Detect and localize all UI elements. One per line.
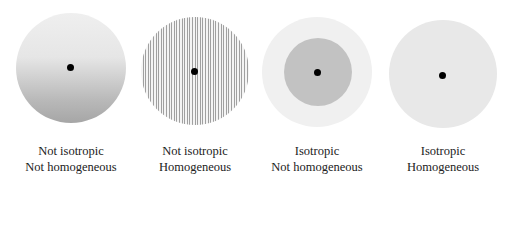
panel-label: Not isotropic Homogeneous — [130, 143, 260, 175]
panel-label: Isotropic Homogeneous — [378, 143, 505, 175]
label-line-1: Not isotropic — [130, 143, 260, 159]
center-point — [191, 68, 198, 75]
label-line-2: Homogeneous — [130, 159, 260, 175]
center-point — [67, 64, 74, 71]
center-point — [314, 69, 321, 76]
label-line-1: Isotropic — [252, 143, 382, 159]
label-line-2: Homogeneous — [378, 159, 505, 175]
center-point — [439, 72, 446, 79]
label-line-1: Not isotropic — [6, 143, 136, 159]
panel-label: Isotropic Not homogeneous — [252, 143, 382, 175]
label-line-2: Not homogeneous — [6, 159, 136, 175]
label-line-1: Isotropic — [378, 143, 505, 159]
panel-label: Not isotropic Not homogeneous — [6, 143, 136, 175]
label-line-2: Not homogeneous — [252, 159, 382, 175]
